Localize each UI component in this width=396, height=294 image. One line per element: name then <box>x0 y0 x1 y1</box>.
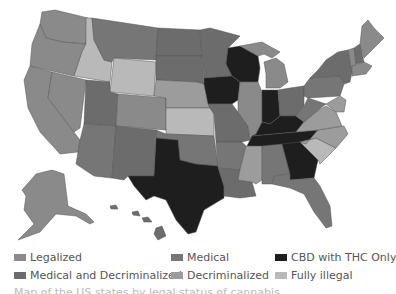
state-hi[interactable] <box>110 205 166 240</box>
medical-decriminalized-swatch-icon <box>14 272 26 279</box>
legend-label: Medical and Decriminalized <box>30 269 182 282</box>
legend-label: Decriminalized <box>187 269 269 282</box>
legend-item-medical-decriminalized: Medical and Decriminalized <box>14 268 171 282</box>
state-mt[interactable] <box>92 18 158 62</box>
legend-item-cbd-thc-only: CBD with THC Only <box>275 250 386 264</box>
cbd-thc-only-swatch-icon <box>275 254 287 261</box>
state-fl[interactable] <box>272 174 332 228</box>
legend-item-legalized: Legalized <box>14 250 171 264</box>
state-az[interactable] <box>76 124 116 178</box>
legend-label: Fully illegal <box>291 269 353 282</box>
decriminalized-swatch-icon <box>171 272 183 279</box>
legend-label: Legalized <box>30 251 82 264</box>
map-legend: Legalized Medical CBD with THC Only Medi… <box>14 250 386 282</box>
legend-item-fully-illegal: Fully illegal <box>275 268 386 282</box>
legend-label: CBD with THC Only <box>291 251 396 264</box>
map-caption: Map of the US states by legal status of … <box>14 286 280 294</box>
medical-swatch-icon <box>171 254 183 261</box>
us-cannabis-map <box>0 0 388 245</box>
state-nm[interactable] <box>112 126 156 180</box>
state-ks[interactable] <box>166 108 214 136</box>
state-sd[interactable] <box>156 56 204 84</box>
legend-label: Medical <box>187 251 229 264</box>
legend-item-decriminalized: Decriminalized <box>171 268 275 282</box>
state-me[interactable] <box>360 20 384 58</box>
state-ak[interactable] <box>18 170 94 240</box>
state-wy[interactable] <box>110 58 156 96</box>
fully-illegal-swatch-icon <box>275 272 287 279</box>
legend-item-medical: Medical <box>171 250 275 264</box>
state-ia[interactable] <box>204 76 240 104</box>
state-co[interactable] <box>116 94 166 130</box>
legalized-swatch-icon <box>14 254 26 261</box>
state-pa[interactable] <box>304 76 344 98</box>
state-nd[interactable] <box>156 28 202 56</box>
